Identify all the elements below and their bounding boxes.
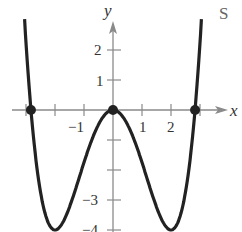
intercept-point: [26, 105, 36, 115]
intercept-point: [190, 105, 200, 115]
x-tick-label: −1: [68, 119, 84, 135]
y-tick-label: −3: [82, 192, 98, 208]
y-tick-label: 2: [94, 42, 102, 58]
graph: yx21−3−4−112: [0, 0, 242, 232]
y-axis-label: y: [102, 1, 112, 20]
intercept-point: [108, 105, 118, 115]
y-tick-label: 1: [96, 73, 104, 89]
x-tick-label: 1: [139, 119, 147, 135]
axes: [12, 21, 228, 232]
y-tick-label: −4: [82, 222, 98, 232]
x-tick-label: 2: [167, 119, 175, 135]
x-axis-label: x: [229, 101, 238, 120]
